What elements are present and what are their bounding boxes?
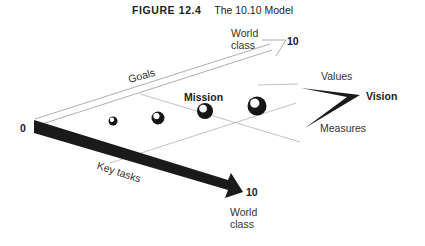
key-tasks-world-line2: class [230,219,254,230]
values-label: Values [321,71,352,82]
sphere-2-icon [152,112,165,125]
goals-world-line1: World [231,28,258,39]
key-tasks-axis-arrow [34,120,243,198]
sphere-3-icon [197,103,213,119]
origin-label: 0 [20,123,26,134]
goals-end-value: 10 [287,36,299,47]
key-tasks-world-line1: World [230,207,257,218]
key-tasks-end-value: 10 [246,187,258,198]
mission-label: Mission [184,92,223,103]
vision-label: Vision [366,91,397,102]
sphere-1-icon [109,117,118,126]
sphere-4-icon [248,97,267,116]
goals-axis-arrow [35,40,286,124]
measures-label: Measures [320,123,366,134]
goals-world-line2: class [231,40,255,51]
